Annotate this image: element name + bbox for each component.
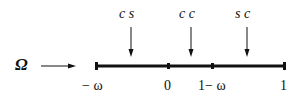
arrow-cc [189,27,194,57]
axis-label-zero: 0 [164,78,171,94]
tick-one-minus-omega [211,63,214,69]
tick-one [283,62,286,70]
axis-label-one: 1 [280,78,287,94]
arrow-sc [245,27,250,57]
omega-symbol: Ω [15,55,28,75]
axis-label-one-minus-omega: 1− ω [198,78,226,94]
tick-zero [167,63,170,69]
axis-label-minus-omega: − ω [82,78,103,94]
tick-minus-omega [95,62,98,70]
label-sc: s c [235,6,250,22]
label-cs: c s [119,6,134,22]
arrow-cs [129,27,134,57]
input-arrow [41,64,76,69]
diagram-canvas [0,0,300,98]
label-cc: c c [179,6,195,22]
